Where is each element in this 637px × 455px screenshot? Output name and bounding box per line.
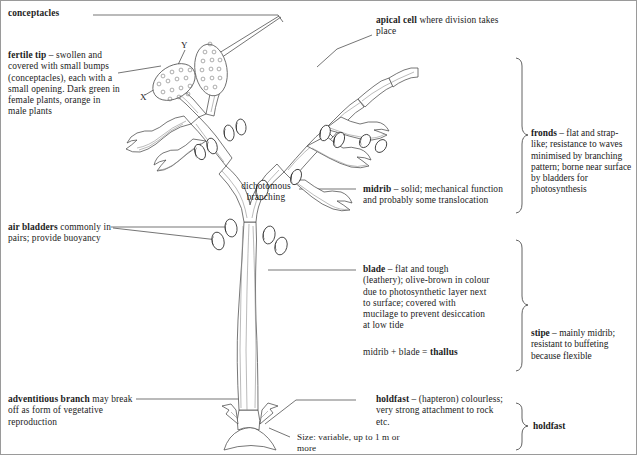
bracket-label-fronds: fronds – flat and strap-like; resistance…: [531, 128, 632, 196]
thallus-equation-term: thallus: [430, 347, 458, 357]
stipe-term: stipe: [531, 328, 550, 338]
thallus-outline: [126, 42, 418, 450]
label-midrib: midrib – solid; mechanical function and …: [363, 184, 503, 207]
holdfast-bracket-term: holdfast: [533, 421, 565, 431]
apical-cell-term: apical cell: [376, 15, 417, 25]
air-bladders-term: air bladders: [8, 222, 58, 232]
label-blade: blade – flat and tough (leathery); olive…: [363, 264, 491, 332]
marker-x-label: X: [140, 92, 147, 102]
dichotomous-line2: branching: [247, 192, 285, 202]
label-fertile-tip: fertile tip – swollen and covered with s…: [8, 50, 120, 118]
blade-term: blade: [363, 264, 385, 274]
label-size: Size: variable, up to 1 m or more: [297, 432, 405, 454]
fronds-term: fronds: [531, 128, 557, 138]
label-dichotomous-branching: dichotomous branching: [226, 181, 306, 204]
bracket-label-stipe: stipe – mainly midrib; resistant to buff…: [531, 328, 632, 362]
bracket-label-holdfast: holdfast: [533, 421, 634, 432]
label-conceptacles: conceptacles: [8, 8, 98, 19]
size-text: Size: variable, up to 1 m or more: [297, 432, 400, 453]
marker-y-label: Y: [181, 40, 188, 50]
dichotomous-line1: dichotomous: [241, 181, 291, 191]
fertile-tip-term: fertile tip: [8, 50, 46, 60]
adventitious-term: adventitious branch: [8, 394, 90, 404]
label-apical-cell: apical cell where division takes place: [376, 15, 516, 38]
label-adventitious-branch: adventitious branch may break off as for…: [8, 394, 136, 428]
holdfast-term: holdfast: [376, 394, 409, 404]
label-thallus-equation: midrib + blade = thallus: [363, 347, 523, 358]
conceptacles-text: conceptacles: [8, 8, 59, 18]
thallus-equation-lead: midrib + blade =: [363, 347, 430, 357]
right-brackets: [516, 58, 528, 450]
label-holdfast: holdfast – (hapteron) colourless; very s…: [376, 394, 506, 428]
label-air-bladders: air bladders commonly in pairs; provide …: [8, 222, 116, 245]
midrib-term: midrib: [363, 184, 391, 194]
